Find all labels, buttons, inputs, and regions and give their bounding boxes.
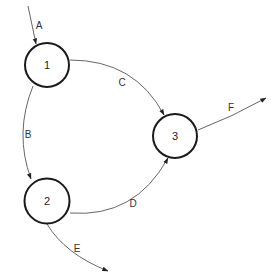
node-1-label: 1 — [44, 59, 50, 71]
edge-d: D — [70, 158, 168, 213]
edge-c-label: C — [118, 77, 125, 88]
edge-b-label: B — [25, 129, 32, 140]
node-2-label: 2 — [44, 195, 50, 207]
edge-f: F — [198, 98, 266, 130]
edge-a: A — [28, 6, 43, 44]
edge-e-label: E — [74, 243, 81, 254]
node-3-label: 3 — [172, 130, 178, 142]
edge-b: B — [23, 86, 33, 179]
node-3: 3 — [153, 114, 197, 158]
flow-diagram: A B C D E F 1 2 3 — [0, 0, 271, 278]
edge-d-arrow — [70, 158, 168, 213]
edge-f-label: F — [228, 102, 234, 113]
edge-c-arrow — [70, 60, 164, 115]
edge-c: C — [70, 60, 164, 115]
edge-d-label: D — [129, 198, 136, 209]
edge-a-label: A — [36, 20, 43, 31]
edge-e: E — [47, 224, 108, 271]
node-1: 1 — [25, 43, 69, 87]
node-2: 2 — [25, 179, 70, 224]
